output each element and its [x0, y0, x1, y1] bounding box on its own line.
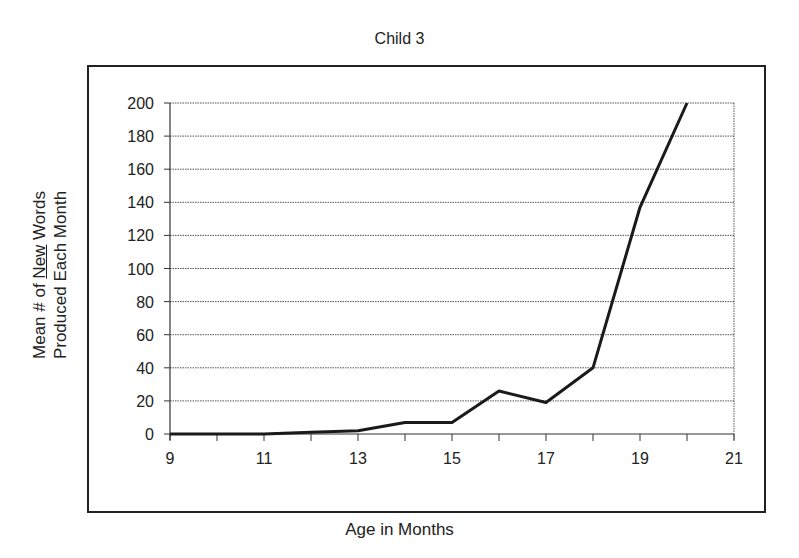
y-tick-label: 100	[127, 261, 154, 278]
x-tick-label: 17	[537, 450, 555, 467]
y-tick-label: 120	[127, 227, 154, 244]
x-axis-label: Age in Months	[0, 520, 799, 540]
y-tick-label: 200	[127, 95, 154, 112]
plot-area: 0204060801001201401601802009111315171921	[0, 0, 799, 558]
x-tick-label: 11	[256, 450, 273, 467]
y-tick-label: 0	[145, 426, 154, 443]
y-tick-label: 20	[136, 393, 154, 410]
y-tick-label: 140	[127, 194, 154, 211]
y-tick-label: 160	[127, 161, 154, 178]
x-tick-label: 9	[166, 450, 175, 467]
x-tick-label: 19	[631, 450, 649, 467]
y-tick-label: 60	[136, 327, 154, 344]
y-tick-label: 40	[136, 360, 154, 377]
x-tick-label: 13	[349, 450, 367, 467]
x-tick-label: 15	[443, 450, 461, 467]
y-tick-label: 180	[127, 128, 154, 145]
x-tick-label: 21	[725, 450, 743, 467]
y-tick-label: 80	[136, 294, 154, 311]
